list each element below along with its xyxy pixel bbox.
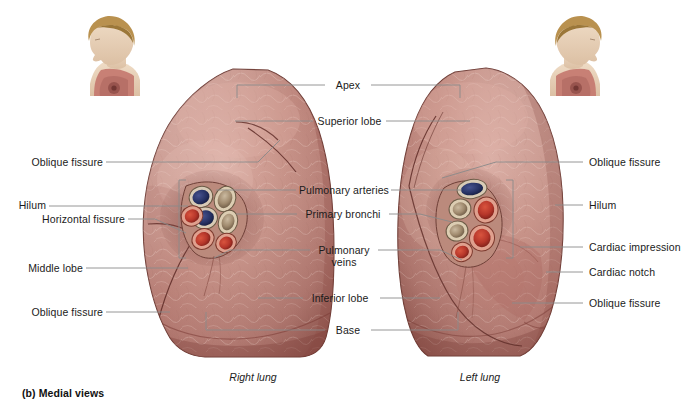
label-middle-lobe-right-lung: Middle lobe	[0, 262, 83, 274]
view-name-right-lung: Right lung	[198, 371, 308, 383]
anatomy-figure-medial-views-of-lungs: Oblique fissure Hilum Horizontal fissure…	[0, 0, 697, 410]
label-hilum-left-lung: Hilum	[589, 199, 616, 211]
label-oblique-fissure-superior-left-lung: Oblique fissure	[589, 156, 661, 168]
figure-caption: (b) Medial views	[22, 387, 104, 399]
label-horizontal-fissure-right-lung: Horizontal fissure	[0, 213, 125, 225]
label-oblique-fissure-inferior-left-lung: Oblique fissure	[589, 297, 661, 309]
left-lung	[386, 60, 580, 372]
label-cardiac-notch: Cardiac notch	[589, 266, 655, 278]
label-hilum-right-lung: Hilum	[0, 199, 46, 211]
inset-figure-right-lung-orientation	[88, 16, 140, 96]
label-pulmonary-arteries: Pulmonary arteries	[299, 184, 388, 196]
label-cardiac-impression: Cardiac impression	[589, 241, 681, 253]
view-name-left-lung: Left lung	[425, 371, 535, 383]
label-oblique-fissure-inferior-right-lung: Oblique fissure	[0, 306, 103, 318]
label-oblique-fissure-superior-right-lung: Oblique fissure	[0, 156, 103, 168]
label-inferior-lobe: Inferior lobe	[306, 292, 374, 304]
label-superior-lobe: Superior lobe	[316, 115, 383, 127]
label-pulmonary-veins-line1: Pulmonary	[313, 244, 375, 256]
label-primary-bronchi: Primary bronchi	[300, 208, 386, 220]
label-base: Base	[328, 324, 368, 336]
inset-figure-left-lung-orientation	[550, 16, 602, 96]
label-pulmonary-veins-line2: veins	[313, 256, 375, 268]
label-apex: Apex	[328, 79, 368, 91]
